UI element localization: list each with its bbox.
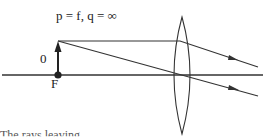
ray-parallel [58, 41, 258, 67]
lens-diagram [0, 0, 263, 138]
ray-center-arrow-icon [228, 85, 239, 90]
ray-center [58, 41, 258, 96]
focal-point-dot [54, 71, 61, 78]
ray-parallel-arrow-icon [228, 55, 238, 60]
object-arrow-head [55, 41, 62, 52]
